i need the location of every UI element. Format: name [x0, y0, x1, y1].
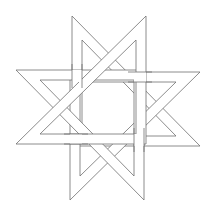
interlaced-star-diagram: Interlaced eight-pointed star: [0, 0, 216, 216]
